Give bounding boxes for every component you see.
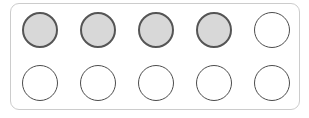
counter-cell-2[interactable] bbox=[80, 12, 116, 48]
counter-cell-1[interactable] bbox=[22, 12, 58, 48]
ten-frame-widget bbox=[0, 0, 309, 118]
counter-cell-7[interactable] bbox=[80, 65, 116, 101]
counter-cell-6[interactable] bbox=[22, 65, 58, 101]
counter-cell-3[interactable] bbox=[138, 12, 174, 48]
counter-cell-9[interactable] bbox=[196, 65, 232, 101]
ten-frame-panel bbox=[10, 3, 300, 110]
counter-row-top bbox=[11, 8, 301, 52]
counter-grid bbox=[11, 4, 301, 111]
counter-cell-5[interactable] bbox=[254, 12, 290, 48]
counter-row-bottom bbox=[11, 61, 301, 105]
counter-cell-8[interactable] bbox=[138, 65, 174, 101]
counter-cell-10[interactable] bbox=[254, 65, 290, 101]
counter-cell-4[interactable] bbox=[196, 12, 232, 48]
